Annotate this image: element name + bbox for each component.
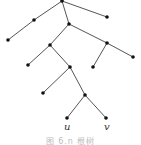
tree-edge (34, 1, 62, 20)
tree-edge (70, 67, 85, 95)
figure-caption: 图 6.n 根树 (0, 135, 141, 145)
tree-node-n2 (105, 15, 109, 19)
tree-edge (62, 1, 107, 17)
tree-node-n5 (48, 43, 52, 47)
tree-diagram: u v (0, 0, 141, 145)
node-label-v: v (104, 121, 110, 132)
tree-node-n4 (6, 38, 10, 42)
tree-node-n11 (41, 91, 45, 95)
tree-node-n1 (32, 18, 36, 22)
tree-edge (67, 95, 85, 118)
tree-node-n8 (68, 65, 72, 69)
tree-edge (43, 67, 70, 93)
tree-edge (62, 1, 69, 24)
tree-edge (8, 20, 34, 40)
tree-edge (50, 24, 69, 45)
tree-nodes (6, 0, 135, 120)
tree-node-n9 (91, 65, 95, 69)
tree-edges (8, 1, 133, 118)
tree-node-v (104, 116, 108, 120)
tree-node-n6 (105, 41, 109, 45)
tree-node-n3 (67, 22, 71, 26)
tree-edge (69, 24, 107, 43)
tree-edge (107, 43, 133, 57)
tree-edge (50, 45, 70, 67)
tree-node-n7 (26, 63, 30, 67)
node-label-u: u (64, 121, 70, 132)
tree-node-n10 (131, 55, 135, 59)
tree-node-n12 (83, 93, 87, 97)
tree-node-u (65, 116, 69, 120)
tree-edge (85, 95, 106, 118)
tree-edge (93, 43, 107, 67)
tree-edge (28, 45, 50, 65)
